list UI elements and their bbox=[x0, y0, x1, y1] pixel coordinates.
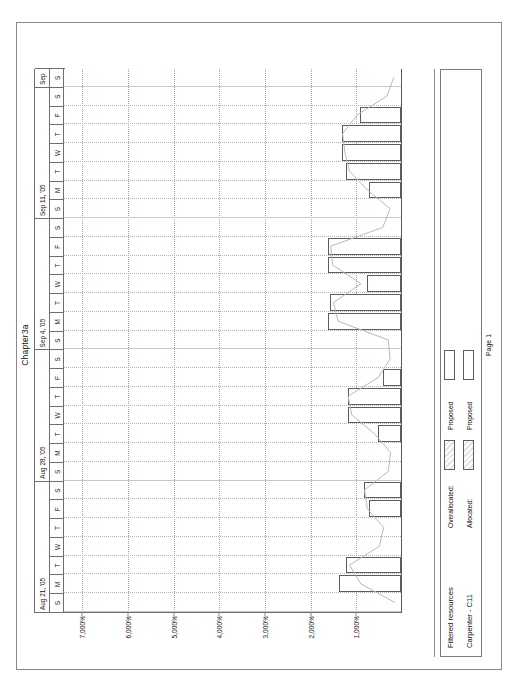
y-axis-tick-mark bbox=[264, 613, 265, 616]
timescale-day: S bbox=[50, 481, 65, 500]
legend-overallocated-proposed-swatch bbox=[444, 350, 455, 380]
timescale-day: M bbox=[50, 443, 65, 462]
timescale-day: S bbox=[50, 349, 65, 368]
y-axis-tick-label: 4,000% bbox=[216, 616, 223, 638]
legend-allocated-swatch bbox=[463, 440, 474, 470]
timescale-day: M bbox=[50, 181, 65, 200]
timescale-day: S bbox=[50, 462, 65, 481]
timescale-day: F bbox=[50, 368, 65, 387]
rotated-report-wrapper: Chapter3a 1,000%2,000%3,000%4,000%5,000%… bbox=[16, 22, 502, 670]
y-axis-tick-label: 6,000% bbox=[124, 616, 131, 638]
timescale-day: S bbox=[50, 218, 65, 237]
timescale-day: T bbox=[50, 518, 65, 537]
page-number: Page 1 bbox=[485, 21, 492, 669]
y-axis-tick-mark bbox=[310, 613, 311, 616]
timescale-week-1: Aug 28, '05 bbox=[35, 349, 50, 480]
timescale-day: M bbox=[50, 575, 65, 594]
legend-overallocated-swatch bbox=[444, 440, 455, 470]
y-axis-tick-label: 2,000% bbox=[307, 616, 314, 638]
timescale-day: W bbox=[50, 143, 65, 162]
report-title: Chapter3a bbox=[20, 21, 30, 669]
timescale-day: S bbox=[50, 199, 65, 218]
timescale-day: T bbox=[50, 387, 65, 406]
overallocated-trend-line bbox=[64, 69, 402, 612]
y-axis-tick-mark bbox=[356, 613, 357, 616]
legend-overallocated-label: Overallocated: bbox=[447, 485, 454, 528]
y-axis-tick-mark bbox=[173, 613, 174, 616]
timescale-week-2: Sep 4, '05 bbox=[35, 218, 50, 349]
timescale-day: T bbox=[50, 424, 65, 443]
timescale-day: S bbox=[50, 87, 65, 106]
y-axis-tick-label: 5,000% bbox=[170, 616, 177, 638]
timescale-day: F bbox=[50, 237, 65, 256]
timescale-day: T bbox=[50, 256, 65, 275]
timescale-day: M bbox=[50, 312, 65, 331]
legend-filtered-title: Filtered resources bbox=[446, 587, 455, 648]
y-axis-tick-mark bbox=[82, 613, 83, 616]
timescale-day: T bbox=[50, 124, 65, 143]
legend-resource-title: Carpenter - C11 bbox=[465, 594, 474, 648]
timescale-day: T bbox=[50, 162, 65, 181]
timescale-day: F bbox=[50, 106, 65, 125]
legend-box: Filtered resources Carpenter - C11 Overa… bbox=[440, 69, 482, 657]
legend-allocated-label: Allocated: bbox=[466, 499, 473, 528]
plot-area bbox=[64, 69, 402, 613]
timescale-day: S bbox=[50, 593, 65, 612]
timescale-day: F bbox=[50, 499, 65, 518]
timescale-week-4: Sep bbox=[35, 68, 50, 87]
y-axis-tick-label: 7,000% bbox=[79, 616, 86, 638]
timescale-day: S bbox=[50, 331, 65, 350]
timescale-day: S bbox=[50, 68, 65, 87]
timescale-day: T bbox=[50, 556, 65, 575]
legend-overallocated-value: Proposed bbox=[447, 402, 454, 430]
y-axis: 1,000%2,000%3,000%4,000%5,000%6,000%7,00… bbox=[34, 613, 402, 657]
timescale-day: T bbox=[50, 293, 65, 312]
timescale-day: W bbox=[50, 406, 65, 425]
legend-allocated-proposed-swatch bbox=[463, 350, 474, 380]
timescale-week-0: Aug 21, '05 bbox=[35, 481, 50, 612]
legend-allocated-value: Proposed bbox=[466, 402, 473, 430]
timescale-header: Aug 21, '05Aug 28, '05Sep 4, '05Sep 11, … bbox=[34, 69, 64, 613]
timescale-week-row: Aug 21, '05Aug 28, '05Sep 4, '05Sep 11, … bbox=[35, 69, 50, 612]
printed-page: Chapter3a 1,000%2,000%3,000%4,000%5,000%… bbox=[0, 0, 518, 692]
timescale-day: W bbox=[50, 537, 65, 556]
timescale-day: W bbox=[50, 274, 65, 293]
resource-graph-report: Chapter3a 1,000%2,000%3,000%4,000%5,000%… bbox=[16, 22, 502, 670]
y-axis-tick-mark bbox=[127, 613, 128, 616]
legend-top-rule bbox=[434, 69, 435, 657]
y-axis-tick-label: 1,000% bbox=[353, 616, 360, 638]
timescale-week-3: Sep 11, '05 bbox=[35, 87, 50, 218]
timescale-day-row: SMTWTFSSMTWTFSSMTWTFSSMTWTFSS bbox=[50, 69, 65, 612]
y-axis-tick-label: 3,000% bbox=[261, 616, 268, 638]
y-axis-tick-mark bbox=[219, 613, 220, 616]
chart-frame: 1,000%2,000%3,000%4,000%5,000%6,000%7,00… bbox=[34, 69, 432, 657]
